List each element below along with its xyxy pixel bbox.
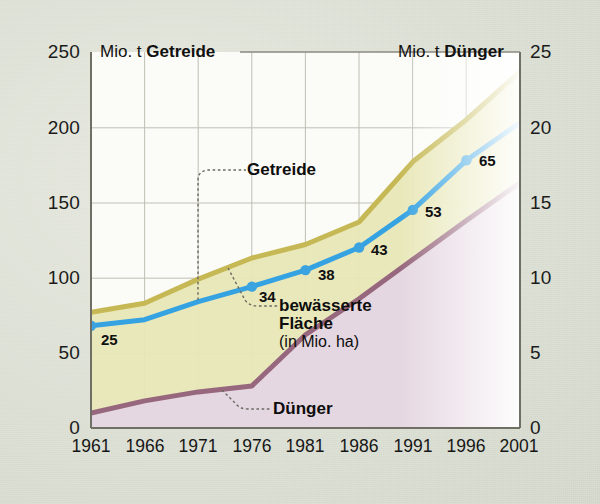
point-label-1986: 43 xyxy=(371,241,388,258)
data-point-1996 xyxy=(461,155,471,165)
chart-figure: 250 200 150 100 50 0 25 20 15 10 5 0 196… xyxy=(0,0,600,504)
point-label-1991: 53 xyxy=(425,203,442,220)
point-label-1981: 38 xyxy=(318,266,335,283)
y-axis-tick-200: 200 xyxy=(22,117,80,139)
point-label-1976: 34 xyxy=(259,288,276,305)
series-label-bewaesserte-line1: bewässerte xyxy=(279,297,372,315)
x-axis-tick-1986: 1986 xyxy=(340,436,379,457)
series-label-getreide: Getreide xyxy=(247,161,316,179)
y2-axis-tick-5: 5 xyxy=(530,342,588,364)
y2-axis-tick-20: 20 xyxy=(530,117,588,139)
x-axis-tick-1971: 1971 xyxy=(179,436,218,457)
y2-axis-tick-25: 25 xyxy=(530,41,588,63)
x-axis-tick-1991: 1991 xyxy=(394,436,433,457)
data-point-1991 xyxy=(408,205,418,215)
y-axis-tick-100: 100 xyxy=(22,267,80,289)
y2-axis-tick-15: 15 xyxy=(530,192,588,214)
y-axis-tick-50: 50 xyxy=(22,342,80,364)
right-axis-caption-unit: Mio. t xyxy=(398,42,444,61)
left-axis-caption-unit: Mio. t xyxy=(100,42,146,61)
y2-axis-tick-10: 10 xyxy=(530,267,588,289)
series-label-bewaesserte-flaeche: bewässerte Fläche (in Mio. ha) xyxy=(279,297,372,351)
x-axis-tick-1966: 1966 xyxy=(126,436,165,457)
data-point-1986 xyxy=(354,242,364,252)
plot-area: 250 200 150 100 50 0 25 20 15 10 5 0 196… xyxy=(0,0,600,504)
point-label-1961: 25 xyxy=(101,331,118,348)
data-point-1981 xyxy=(300,265,310,275)
right-axis-caption-name: Dünger xyxy=(444,42,504,61)
point-label-1996: 65 xyxy=(479,152,496,169)
y-axis-tick-150: 150 xyxy=(22,192,80,214)
x-axis-tick-1996: 1996 xyxy=(447,436,486,457)
series-label-bewaesserte-line2: Fläche xyxy=(279,315,372,333)
data-point-1976 xyxy=(247,281,257,291)
series-label-duenger: Dünger xyxy=(273,400,333,418)
chart-svg xyxy=(0,0,600,504)
x-axis-tick-1961: 1961 xyxy=(72,436,111,457)
y-axis-tick-250: 250 xyxy=(22,41,80,63)
y2-axis-tick-0: 0 xyxy=(530,417,588,439)
right-axis-caption: Mio. t Dünger xyxy=(398,42,504,62)
series-label-bewaesserte-line3: (in Mio. ha) xyxy=(279,333,372,351)
x-axis-tick-2001: 2001 xyxy=(500,436,539,457)
x-axis-tick-1981: 1981 xyxy=(286,436,325,457)
left-axis-caption-name: Getreide xyxy=(146,42,215,61)
left-axis-caption: Mio. t Getreide xyxy=(100,42,215,62)
x-axis-tick-1976: 1976 xyxy=(233,436,272,457)
